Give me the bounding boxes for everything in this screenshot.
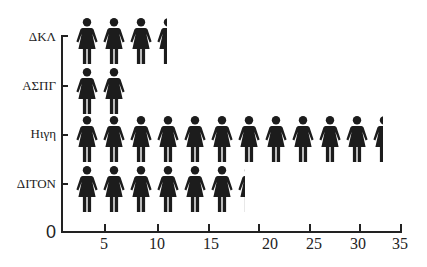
origin-label: 0 [46, 222, 56, 242]
x-tick-label: 5 [89, 235, 119, 253]
x-tick [157, 224, 159, 232]
woman-figure-icon [238, 166, 245, 212]
woman-figure-icon [103, 166, 125, 212]
woman-figure-icon [211, 166, 233, 212]
x-tick-label: 15 [196, 235, 226, 253]
woman-figure-icon [130, 166, 152, 212]
woman-figure-icon [238, 116, 260, 162]
woman-figure-icon [76, 166, 98, 212]
woman-figure-icon [103, 68, 125, 114]
x-tick-label: 35 [385, 235, 415, 253]
category-label: ΑΣΠΓ [22, 79, 56, 93]
category-label: ΔΚΛ [29, 30, 56, 44]
woman-figure-icon [76, 18, 98, 64]
woman-figure-icon [292, 116, 314, 162]
woman-figure-icon [319, 116, 341, 162]
category-label: Ηιγη [31, 127, 56, 141]
woman-figure-icon [157, 18, 167, 64]
x-tick [104, 224, 106, 232]
woman-figure-icon [346, 116, 368, 162]
pictograph-row [76, 166, 245, 212]
woman-figure-icon [76, 116, 98, 162]
category-label: ΔΙΤΟΝ [17, 177, 56, 191]
y-tick [61, 134, 68, 136]
woman-figure-icon [211, 116, 233, 162]
woman-figure-icon [184, 166, 206, 212]
x-tick [359, 224, 361, 232]
woman-figure-icon [76, 68, 98, 114]
woman-figure-icon [130, 116, 152, 162]
x-tick-label: 30 [343, 235, 373, 253]
pictograph-row [76, 68, 125, 114]
x-tick-label: 10 [142, 235, 172, 253]
woman-figure-icon [103, 116, 125, 162]
x-tick-label: 25 [299, 235, 329, 253]
y-tick [61, 35, 68, 37]
woman-figure-icon [373, 116, 383, 162]
x-tick [309, 224, 311, 232]
x-tick-label: 20 [255, 235, 285, 253]
woman-figure-icon [157, 166, 179, 212]
y-tick [61, 85, 68, 87]
woman-figure-icon [103, 18, 125, 64]
y-tick [61, 183, 68, 185]
woman-figure-icon [184, 116, 206, 162]
x-tick [400, 224, 402, 232]
woman-figure-icon [130, 18, 152, 64]
woman-figure-icon [157, 116, 179, 162]
pictograph-row [76, 116, 383, 162]
x-tick [258, 224, 260, 232]
pictograph-row [76, 18, 167, 64]
pictograph-chart: ΔΚΛ ΑΣΠΓ Ηιγη ΔΙΤΟΝ 0 5 10 15 20 25 30 3… [0, 0, 427, 267]
x-tick [208, 224, 210, 232]
woman-figure-icon [265, 116, 287, 162]
x-axis-line [61, 231, 402, 233]
